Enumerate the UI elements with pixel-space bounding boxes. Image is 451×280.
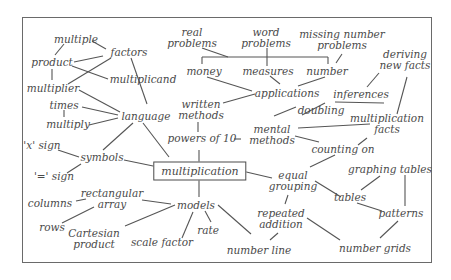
node-multiplier: multiplier bbox=[27, 83, 79, 94]
node-number-line: number line bbox=[227, 245, 291, 256]
node-equal-grouping: equalgrouping bbox=[269, 170, 317, 192]
node-deriving-new-facts: derivingnew facts bbox=[380, 49, 431, 71]
node-language: language bbox=[121, 111, 170, 122]
node-word-problems: wordproblems bbox=[241, 27, 291, 49]
node-models: models bbox=[177, 200, 215, 211]
node-real-problems: realproblems bbox=[167, 27, 217, 49]
node-multiplication-facts: multiplicationfacts bbox=[350, 113, 424, 135]
node-measures: measures bbox=[242, 66, 293, 77]
node-symbols: symbols bbox=[80, 152, 123, 163]
node-graphing-tables: graphing tables bbox=[348, 164, 432, 175]
node-columns: columns bbox=[28, 198, 72, 209]
node-number-grids: number grids bbox=[339, 243, 411, 254]
node-multiplicand: multiplicand bbox=[110, 74, 177, 85]
central-node-multiplication: multiplication bbox=[153, 162, 246, 181]
node-cartesian-product: Cartesianproduct bbox=[68, 228, 120, 250]
node-number: number bbox=[306, 66, 347, 77]
node-eq-sign: '=' sign bbox=[34, 171, 74, 182]
node-multiple: multiple bbox=[54, 34, 98, 45]
node-repeated-addition: repeatedaddition bbox=[257, 208, 305, 230]
node-written-methods: writtenmethods bbox=[178, 99, 224, 121]
node-powers-of-10: powers of 10 bbox=[168, 133, 237, 144]
node-patterns: patterns bbox=[379, 208, 424, 219]
node-product: product bbox=[31, 57, 73, 68]
node-rows: rows bbox=[39, 222, 65, 233]
node-money: money bbox=[186, 66, 221, 77]
node-counting-on: counting on bbox=[311, 144, 374, 155]
node-scale-factor: scale factor bbox=[131, 237, 193, 248]
node-tables: tables bbox=[334, 192, 366, 203]
node-multiply: multiply bbox=[46, 119, 90, 130]
node-mental-methods: mentalmethods bbox=[249, 124, 295, 146]
node-applications: applications bbox=[255, 88, 320, 99]
node-factors: factors bbox=[111, 47, 148, 58]
node-rate: rate bbox=[197, 225, 219, 236]
node-x-sign: 'x' sign bbox=[23, 140, 60, 151]
node-times: times bbox=[49, 100, 78, 111]
node-doubling: doubling bbox=[298, 105, 345, 116]
node-rectangular-array: rectangulararray bbox=[81, 188, 143, 210]
node-inferences: inferences bbox=[333, 89, 389, 100]
node-missing-number-problems: missing numberproblems bbox=[299, 29, 385, 51]
